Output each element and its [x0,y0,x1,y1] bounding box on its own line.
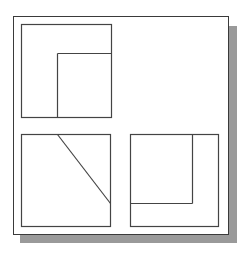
front-view-outline [22,135,111,227]
top-view [22,25,112,118]
top-view-outline [22,25,112,118]
side-view-outline [131,135,219,227]
front-view [22,135,111,227]
orthographic-views [0,0,247,258]
front-view-edge-line [58,135,111,204]
side-view [131,135,219,227]
